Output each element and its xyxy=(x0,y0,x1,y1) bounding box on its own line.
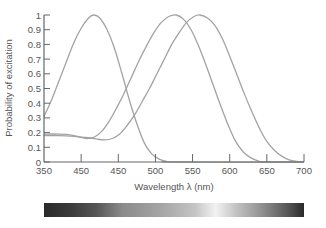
x-tick-label: 650 xyxy=(259,165,275,176)
y-tick-label: 0.1 xyxy=(28,142,41,153)
y-tick-label: 0.4 xyxy=(28,98,41,109)
x-tick-label: 550 xyxy=(185,165,201,176)
cone-sensitivity-chart: 00.10.20.30.40.50.60.70.80.91 3504504505… xyxy=(0,0,326,228)
cone-curves xyxy=(44,15,304,162)
x-tick-label: 450 xyxy=(73,165,89,176)
y-tick-label: 0.2 xyxy=(28,127,41,138)
s-cone-curve xyxy=(44,15,304,162)
x-tick-label: 500 xyxy=(147,165,163,176)
x-tick-label: 600 xyxy=(222,165,238,176)
y-axis-ticks: 00.10.20.30.40.50.60.70.80.91 xyxy=(28,10,50,168)
y-tick-label: 0.3 xyxy=(28,112,41,123)
y-tick-label: 0.9 xyxy=(28,24,41,35)
x-tick-label: 700 xyxy=(296,165,312,176)
x-axis-ticks: 350450450500550600650700 xyxy=(36,154,312,176)
y-tick-label: 0.5 xyxy=(28,83,41,94)
y-tick-label: 0.8 xyxy=(28,39,41,50)
l-cone-curve xyxy=(44,15,304,162)
x-axis-title: Wavelength λ (nm) xyxy=(134,181,213,192)
y-tick-label: 1 xyxy=(36,10,41,21)
m-cone-curve xyxy=(44,15,304,162)
x-tick-label: 450 xyxy=(110,165,126,176)
y-tick-label: 0.7 xyxy=(28,54,41,65)
spectrum-bar xyxy=(44,203,304,217)
y-tick-label: 0.6 xyxy=(28,68,41,79)
x-tick-label: 350 xyxy=(36,165,52,176)
y-axis-title: Probability of excitation xyxy=(3,39,14,137)
